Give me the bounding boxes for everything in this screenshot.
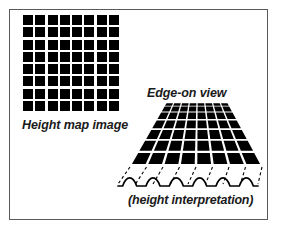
perspective-grid-cell [173,103,181,106]
perspective-grid-cell [221,103,229,106]
perspective-grid-cell [198,120,208,128]
perspective-grid-cell [180,107,188,112]
height-map-cell [60,52,70,62]
height-map-cell [60,15,70,25]
height-map-cell [97,27,107,37]
height-map-grid [23,15,119,111]
perspective-grid-cell [148,153,165,164]
height-map-cell [23,64,33,74]
height-map-cell [84,64,94,74]
height-map-cell [72,64,82,74]
height-map-cell [109,52,119,62]
perspective-grid-cell [212,153,227,164]
height-map-cell [35,27,45,37]
height-map-label: Height map image [22,119,128,132]
height-map-cell [97,76,107,86]
perspective-grid-cell [139,141,156,151]
height-map-cell [109,64,119,74]
height-map-cell [72,40,82,50]
perspective-grid-cell [242,153,260,164]
perspective-grid-cell [208,120,219,128]
perspective-grid-cell [159,130,173,139]
perspective-grid-cell [189,103,196,106]
perspective-grid-cell [218,120,230,128]
height-map-cell [97,64,107,74]
perspective-grid-cell [225,113,236,120]
height-map-cell [23,40,33,50]
perspective-grid-cell [211,141,225,151]
height-map-cell [23,89,33,99]
projection-line [136,167,147,184]
perspective-grid-cell [198,103,205,106]
height-map-cell [84,76,94,86]
height-map-cell [35,52,45,62]
height-map-cell [60,89,70,99]
perspective-grid-cell [178,113,188,120]
height-map-cell [35,15,45,25]
height-map-cell [60,76,70,86]
perspective-grid-cell [171,107,180,112]
height-map-cell [84,40,94,50]
perspective-grid-cell [181,103,188,106]
height-map-cell [97,52,107,62]
height-map-cell [84,89,94,99]
perspective-grid-cell [221,130,234,139]
projection-line [206,167,213,184]
height-map-cell [48,15,58,25]
height-map-cell [97,15,107,25]
perspective-grid-cell [186,120,196,128]
height-map-cell [84,52,94,62]
perspective-grid-cell [237,141,253,151]
height-map-cell [109,40,119,50]
figure-root: Height map image Edge-on view (height in… [0,0,282,230]
perspective-grid-cell [164,120,176,128]
height-map-cell [109,27,119,37]
height-map-cell [72,76,82,86]
height-map-cell [48,76,58,86]
height-map-cell [23,76,33,86]
height-map-cell [84,101,94,111]
perspective-grid-cell [181,153,195,164]
perspective-grid-cell [189,107,197,112]
height-map-cell [72,89,82,99]
perspective-grid-cell [206,107,214,112]
perspective-grid-cell [185,130,196,139]
height-map-cell [109,15,119,25]
height-map-cell [48,89,58,99]
perspective-grid-cell [213,103,221,106]
height-interpretation-label: (height interpretation) [128,194,253,207]
perspective-grid-cell [227,153,244,164]
perspective-grid-cell [165,103,173,106]
height-map-cell [23,27,33,37]
height-map-cell [72,101,82,111]
perspective-grid-cell [224,141,239,151]
perspective-grid-cell [216,113,226,120]
perspective-grid [132,103,260,164]
height-map-cell [48,27,58,37]
perspective-grid-cell [207,113,216,120]
perspective-grid-cell [146,130,161,139]
height-map-cell [109,76,119,86]
height-map-cell [60,101,70,111]
projection-line [258,167,262,184]
edge-on-view-label: Edge-on view [147,87,226,100]
perspective-grid-cell [222,107,232,112]
height-map-cell [60,27,70,37]
perspective-grid-cell [188,113,197,120]
perspective-grid-cell [162,107,172,112]
height-map-cell [35,64,45,74]
perspective-grid-cell [232,130,247,139]
height-map-cell [97,40,107,50]
height-map-cell [23,52,33,62]
height-map-cell [109,89,119,99]
height-map-cell [35,101,45,111]
perspective-grid-cell [214,107,223,112]
perspective-grid-cell [198,113,206,120]
perspective-grid-cell [228,120,241,128]
perspective-grid-cell [168,141,182,151]
height-map-cell [60,40,70,50]
height-map-cell [72,27,82,37]
height-map-cell [48,52,58,62]
height-map-cell [60,64,70,74]
height-profile-wave [118,178,258,186]
